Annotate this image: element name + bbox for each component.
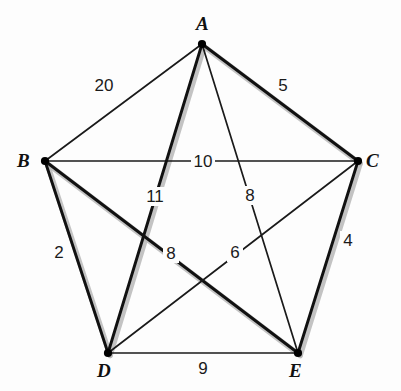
- edge-ce: [298, 161, 358, 353]
- vertex-label-a: A: [196, 14, 209, 33]
- graph-canvas: [0, 0, 401, 391]
- edge-weight-ab: 20: [92, 76, 117, 95]
- edge-weight-ce: 4: [340, 231, 355, 250]
- weighted-graph-figure: ABCDE 2051011828649: [0, 0, 401, 391]
- vertex-label-e: E: [289, 361, 302, 380]
- edge-weight-de: 9: [195, 359, 210, 378]
- vertex-dot-a: [198, 40, 206, 48]
- edge-weight-cd: 6: [227, 243, 242, 262]
- vertex-dot-e: [294, 349, 302, 357]
- edge-weight-be: 8: [163, 244, 178, 263]
- edge-weight-bc: 10: [191, 152, 216, 171]
- vertex-label-b: B: [17, 151, 30, 170]
- vertex-label-d: D: [97, 361, 111, 380]
- vertex-dot-d: [104, 349, 112, 357]
- vertex-dot-b: [41, 157, 49, 165]
- edge-weight-ae: 8: [242, 186, 257, 205]
- vertex-dot-c: [354, 157, 362, 165]
- edge-shadow-ce: [300, 164, 360, 356]
- edge-weight-bd: 2: [51, 243, 66, 262]
- edge-weight-ac: 5: [275, 76, 290, 95]
- edge-ac: [202, 44, 358, 161]
- edge-ab: [45, 44, 202, 161]
- edge-weight-ad: 11: [143, 187, 167, 206]
- vertex-label-c: C: [366, 151, 379, 170]
